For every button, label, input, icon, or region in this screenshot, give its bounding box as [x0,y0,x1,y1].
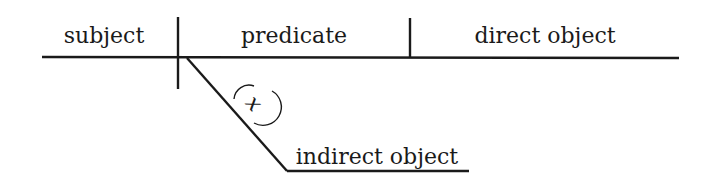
direct-object-label: direct object [474,23,615,48]
indirect-object-slant [187,58,287,171]
sentence-diagram: subject predicate direct object indirect… [0,0,712,185]
indirect-object-label: indirect object [296,144,459,169]
baseline [42,57,679,58]
subject-label: subject [64,23,145,48]
preposition-marker: x [241,90,268,116]
predicate-label: predicate [241,23,347,48]
